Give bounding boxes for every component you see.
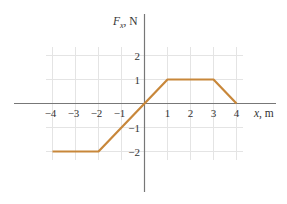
y-tick-label: 1 [135, 74, 141, 86]
y-axis-label: Fx, N [112, 15, 138, 30]
x-tick-label: 2 [188, 107, 194, 119]
y-tick-label: 2 [135, 50, 141, 62]
x-tick-label: −3 [68, 107, 80, 119]
y-tick-label: −1 [128, 122, 140, 134]
x-tick-label: 4 [234, 107, 240, 119]
x-tick-label: 3 [211, 107, 217, 119]
x-tick-label: 1 [165, 107, 171, 119]
y-tick-label: −2 [128, 146, 140, 158]
x-tick-label: −4 [45, 107, 57, 119]
x-tick-label: −1 [114, 107, 126, 119]
force-position-chart: −4−3−2−1123421−1−2 Fx, N x, m [0, 0, 287, 204]
x-tick-label: −2 [91, 107, 103, 119]
x-axis-label: x, m [253, 107, 274, 120]
